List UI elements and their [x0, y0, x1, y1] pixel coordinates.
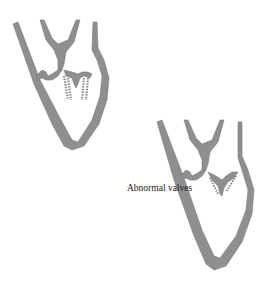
abnormal-valves-label: Abnormal valves — [127, 183, 192, 193]
left-ventricle-wall — [13, 22, 109, 150]
pulmonary-vessel-2 — [184, 120, 224, 170]
heart-diagram-top-left — [0, 0, 264, 297]
valve-ridge-left — [36, 70, 62, 80]
pulmonary-vessel — [40, 20, 80, 70]
valve-ridge-left-2 — [180, 170, 206, 180]
figure-canvas: Abnormal valves — [0, 0, 264, 297]
